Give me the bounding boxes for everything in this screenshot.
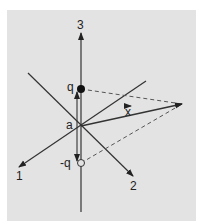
origin-label: a (66, 119, 73, 131)
axis-1 (19, 81, 146, 167)
dipole-diagram (0, 0, 200, 221)
axis-2-label: 2 (130, 180, 137, 192)
negative-charge (78, 160, 85, 167)
negative-charge-label: -q (60, 157, 71, 169)
positive-charge-label: q (67, 81, 74, 93)
vector-x-label: x (125, 106, 131, 118)
positive-charge (77, 85, 85, 93)
axis-1-label: 1 (16, 170, 23, 182)
axis-3-label: 3 (77, 19, 84, 31)
dashed-line-neg-q (81, 104, 182, 163)
